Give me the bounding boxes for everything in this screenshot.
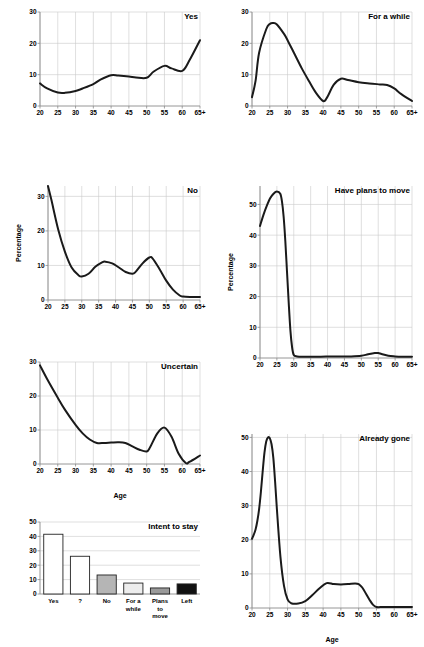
x-tick-label: 50 [358, 361, 366, 368]
x-tick-label: 60 [179, 467, 187, 474]
x-axis-ticks: 20253035404550556065+ [248, 608, 417, 618]
plot-yes: 010203020253035404550556065+Yes [12, 2, 212, 132]
plot-no: 010203020253035404550556065+NoPercentage [12, 176, 212, 326]
panel-title: No [187, 186, 198, 195]
x-tick-label: 25 [54, 467, 62, 474]
x-tick-label: 55 [161, 109, 169, 116]
axis-lines [40, 12, 200, 106]
x-tick-label: 25 [54, 109, 62, 116]
y-axis-ticks: 0102030 [29, 8, 40, 109]
y-axis-label: Percentage [227, 253, 235, 291]
bar [177, 584, 196, 594]
y-tick-label: 30 [29, 8, 37, 15]
x-tick-label: 20 [36, 109, 44, 116]
x-tick-label: 20 [256, 361, 264, 368]
x-tick-label: 55 [373, 109, 381, 116]
bar [44, 534, 63, 594]
panel-title: Yes [184, 12, 198, 21]
x-tick-label: 60 [391, 611, 399, 618]
y-tick-label: 30 [37, 193, 45, 200]
x-tick-label: 60 [391, 109, 399, 116]
x-tick-label: 20 [36, 467, 44, 474]
y-tick-label: 50 [241, 434, 249, 441]
bar-category-label: move [152, 613, 168, 619]
panel-title: For a while [368, 12, 410, 21]
y-tick-label: 40 [249, 232, 257, 239]
data-series-line [40, 40, 200, 93]
y-tick-label: 30 [29, 358, 37, 365]
y-tick-label: 10 [241, 71, 249, 78]
gridlines [252, 434, 412, 608]
bar-category-label: Left [181, 598, 192, 604]
x-tick-label: 45 [341, 361, 349, 368]
y-tick-label: 10 [241, 570, 249, 577]
panel-yes: 010203020253035404550556065+Yes [12, 2, 212, 132]
x-tick-label: 25 [61, 303, 69, 310]
x-tick-label: 45 [129, 303, 137, 310]
x-tick-label: 40 [324, 361, 332, 368]
bar [97, 575, 116, 594]
bar-category-label: ? [78, 598, 82, 604]
data-series-line [260, 192, 412, 357]
y-tick-label: 10 [29, 576, 37, 583]
x-axis-label: Age [325, 636, 338, 644]
x-axis-ticks: 20253035404550556065+ [256, 358, 417, 368]
x-axis-ticks: 20253035404550556065+ [36, 106, 205, 116]
x-tick-label: 50 [355, 109, 363, 116]
panel-have-plans-to-move: 0102030405020253035404550556065+Have pla… [224, 176, 420, 384]
y-axis-ticks: 0102030 [29, 358, 40, 467]
x-tick-label: 30 [284, 611, 292, 618]
x-tick-label: 25 [273, 361, 281, 368]
y-tick-label: 10 [29, 71, 37, 78]
plot-already-gone: 0102030405020253035404550556065+Already … [224, 424, 420, 646]
y-axis-ticks: 01020304050 [241, 434, 252, 612]
x-tick-label: 65+ [194, 303, 205, 310]
plot-uncertain: 010203020253035404550556065+UncertainAge [12, 352, 212, 502]
x-tick-label: 65+ [194, 467, 205, 474]
x-tick-label: 60 [179, 303, 187, 310]
x-tick-label: 35 [302, 109, 310, 116]
x-tick-label: 55 [375, 361, 383, 368]
gridlines [252, 12, 412, 106]
x-tick-label: 55 [163, 303, 171, 310]
bar-category-label: Plans [152, 598, 169, 604]
plot-intent-to-stay: 01020304050Yes?NoFor awhilePlanstomoveLe… [12, 512, 212, 644]
y-tick-label: 0 [33, 590, 37, 597]
y-axis-ticks: 0102030 [241, 8, 252, 109]
x-tick-label: 65+ [406, 361, 417, 368]
x-tick-label: 25 [266, 109, 274, 116]
x-axis-ticks: 20253035404550556065+ [248, 106, 417, 116]
panel-title: Uncertain [161, 362, 198, 371]
panel-intent-to-stay: 01020304050Yes?NoFor awhilePlanstomoveLe… [12, 512, 212, 644]
y-tick-label: 30 [249, 262, 257, 269]
bar-category-label: Yes [48, 598, 59, 604]
x-axis-ticks: 20253035404550556065+ [36, 464, 205, 474]
x-tick-label: 45 [337, 611, 345, 618]
y-tick-label: 50 [249, 201, 257, 208]
y-tick-label: 10 [29, 426, 37, 433]
data-series-line [252, 23, 412, 101]
x-tick-label: 65+ [406, 611, 417, 618]
bar-category-label: For a [126, 598, 141, 604]
plot-have-plans-to-move: 0102030405020253035404550556065+Have pla… [224, 176, 420, 384]
x-tick-label: 40 [319, 109, 327, 116]
x-tick-label: 35 [95, 303, 103, 310]
bar-category-label: No [103, 598, 111, 604]
x-tick-label: 65+ [194, 109, 205, 116]
y-axis-ticks: 01020304050 [29, 518, 40, 597]
x-tick-label: 40 [107, 109, 115, 116]
y-tick-label: 20 [241, 536, 249, 543]
x-tick-label: 30 [290, 361, 298, 368]
y-axis-ticks: 01020304050 [249, 201, 260, 362]
x-tick-label: 40 [112, 303, 120, 310]
axis-lines [252, 434, 412, 608]
y-tick-label: 20 [29, 40, 37, 47]
panel-uncertain: 010203020253035404550556065+UncertainAge [12, 352, 212, 502]
x-tick-label: 60 [391, 361, 399, 368]
x-axis-label: Age [113, 492, 126, 500]
x-tick-label: 50 [143, 109, 151, 116]
x-tick-label: 30 [72, 467, 80, 474]
axis-lines [40, 522, 200, 594]
x-tick-label: 40 [107, 467, 115, 474]
y-tick-label: 20 [241, 40, 249, 47]
